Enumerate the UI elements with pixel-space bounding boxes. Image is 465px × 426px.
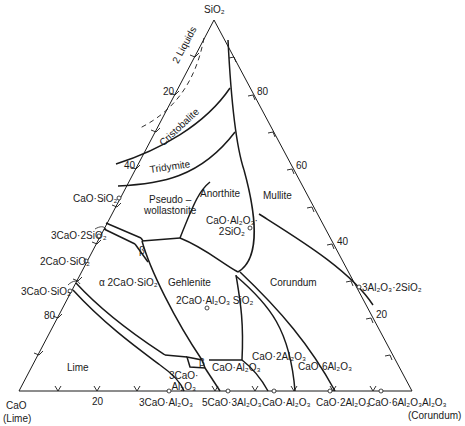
- left-tick-80: 80: [44, 310, 55, 321]
- compound-cao-al2o3: CaO·Al₂O₃: [262, 397, 311, 408]
- field-pseudowollastonite-line2: wollastonite: [144, 205, 196, 216]
- compound-cao-2al2o3: CaO·2Al₂O₃: [316, 397, 370, 408]
- field-ca: CaO·Al₂O₃: [212, 362, 261, 373]
- vertex-cao-sublabel: (Lime): [3, 413, 31, 424]
- compound-anorthite-line1: CaO·Al₂O₃·: [206, 215, 258, 226]
- right-edge-ticks: [229, 57, 392, 360]
- field-gehlenite: Gehlenite: [168, 277, 211, 288]
- vertex-al2o3-sublabel: (Corundum): [408, 410, 461, 421]
- field-pseudowollastonite-line1: Pseudo –: [144, 194, 196, 205]
- field-lime: Lime: [67, 362, 89, 373]
- compound-anorthite-line2: 2SiO₂: [206, 226, 258, 237]
- field-anorthite: Anorthite: [200, 188, 240, 199]
- right-tick-80: 80: [257, 86, 268, 97]
- field-mullite: Mullite: [263, 190, 292, 201]
- compound-3al2o3-2sio2: 3Al₂O₃·2SiO₂: [362, 282, 422, 293]
- field-corundum: Corundum: [270, 277, 317, 288]
- compound-2cao-sio2: 2CaO·SiO₂: [40, 256, 90, 267]
- compound-gehlenite-formula: 2CaO·Al₂O₃ SiO₂: [176, 295, 253, 306]
- bottom-tick-20: 20: [92, 396, 103, 407]
- field-c3a: 3CaO· Al₂O₃: [169, 370, 198, 392]
- field-pseudowollastonite: Pseudo – wollastonite: [144, 194, 196, 216]
- compound-3cao-sio2: 3CaO·SiO₂: [21, 286, 71, 297]
- compound-3cao-2sio2: 3CaO·2SiO₂: [51, 230, 107, 241]
- field-beta-lower: β: [199, 357, 205, 368]
- right-tick-20: 20: [376, 309, 387, 320]
- compound-cao-6al2o3: CaO·6Al₂O₃: [368, 397, 422, 408]
- field-c3a-line1: 3CaO·: [169, 370, 198, 381]
- field-c3a-line2: Al₂O₃: [169, 381, 198, 392]
- vertex-sio2-label: SiO₂: [204, 4, 225, 15]
- field-alpha-c2s: α 2CaO·SiO₂: [99, 277, 158, 288]
- left-tick-40: 40: [124, 160, 135, 171]
- field-beta-upper: β: [139, 245, 145, 256]
- ternary-triangle: [19, 20, 412, 391]
- vertex-al2o3-label: Al₂O₃: [422, 397, 447, 408]
- compound-cao-sio2: CaO·SiO₂: [73, 193, 117, 204]
- right-tick-60: 60: [296, 160, 307, 171]
- compound-anorthite-formula: CaO·Al₂O₃· 2SiO₂: [206, 215, 258, 237]
- vertex-cao-label: CaO: [6, 400, 27, 411]
- right-tick-40: 40: [337, 236, 348, 247]
- left-tick-20: 20: [163, 86, 174, 97]
- compound-5cao-3al2o3: 5CaO·3Al₂O₃: [202, 397, 262, 408]
- compound-3cao-al2o3: 3CaO·Al₂O₃: [139, 397, 193, 408]
- field-ca6: CaO·6Al₂O₃: [298, 361, 352, 372]
